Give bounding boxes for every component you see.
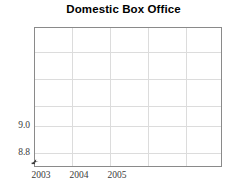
chart-screenshot: Domestic Box Office 9.0 8.8 2003 2004 20… — [0, 0, 233, 193]
x-tick-label: 2003 — [21, 170, 61, 180]
data-point-marker — [31, 157, 40, 165]
x-tick-label: 2004 — [59, 170, 99, 180]
plot-area — [34, 27, 222, 167]
y-tick-label: 9.0 — [0, 120, 30, 130]
x-tick-label: 2005 — [97, 170, 137, 180]
y-tick-label: 8.8 — [0, 147, 30, 157]
chart-title: Domestic Box Office — [0, 3, 233, 15]
grid-lines — [35, 28, 221, 166]
